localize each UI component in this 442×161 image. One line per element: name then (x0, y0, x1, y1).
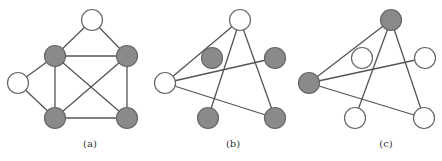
label-c: (c) (379, 138, 393, 149)
node-b-inner-filled (202, 48, 223, 69)
node-c-inner-empty (352, 48, 373, 69)
graph-diagram: (a) (b) (c) (0, 0, 442, 161)
node-b-left-empty (155, 73, 176, 94)
edge-b-left-br (165, 83, 275, 118)
node-a-br-filled (117, 108, 138, 129)
node-a-top-empty (82, 10, 103, 31)
node-b-bl-filled (198, 108, 219, 129)
label-a: (a) (83, 138, 97, 149)
edge-b-left-top (165, 20, 240, 83)
node-c-right-empty (415, 48, 436, 69)
node-a-tl-filled (45, 46, 66, 67)
node-b-top-empty (230, 10, 251, 31)
label-b: (b) (226, 138, 240, 149)
node-c-left-filled (299, 73, 320, 94)
node-b-br-filled (265, 108, 286, 129)
node-b-right-filled (265, 48, 286, 69)
node-c-bl-empty (345, 108, 366, 129)
node-c-br-empty (414, 108, 435, 129)
node-a-tr-filled (117, 46, 138, 67)
node-c-top-filled (381, 10, 402, 31)
node-a-bl-filled (45, 108, 66, 129)
node-a-left-empty (8, 73, 29, 94)
edge-b-top-br (240, 20, 275, 118)
edge-c-top-br (391, 20, 424, 118)
